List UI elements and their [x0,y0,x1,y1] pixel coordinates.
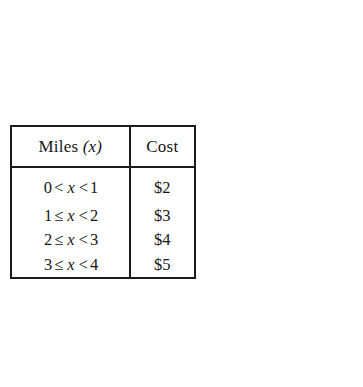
table-row: 1≤x<2 $3 [12,204,194,228]
column-header-miles: Miles (x) [12,127,130,167]
range-upper-operator: < [77,206,90,225]
cell-miles-range: 3≤x<4 [12,253,130,277]
range-lower-bound: 1 [44,206,53,225]
range-lower-operator: ≤ [53,255,66,274]
cell-miles-range: 1≤x<2 [12,204,130,228]
range-variable: x [65,206,77,225]
range-variable: x [65,255,77,274]
table-header-row: Miles (x) Cost [12,127,194,167]
range-lower-operator: ≤ [53,230,66,249]
cell-miles-range: 0<x<1 [12,167,130,204]
range-upper-bound: 1 [90,178,99,197]
range-variable: x [65,178,77,197]
table-row: 2≤x<3 $4 [12,228,194,252]
cell-miles-range: 2≤x<3 [12,228,130,252]
range-upper-operator: < [77,255,90,274]
graph-region: Dollars C [300,0,363,387]
range-upper-operator: < [77,178,90,197]
cell-cost-value: $5 [130,253,194,277]
range-lower-bound: 2 [44,230,53,249]
column-header-miles-text: Miles [38,137,78,156]
range-upper-bound: 2 [90,206,99,225]
cell-cost-value: $2 [130,167,194,204]
cost-table: Miles (x) Cost 0<x<1 $2 1≤x<2 $3 [10,125,196,279]
range-upper-operator: < [77,230,90,249]
column-header-miles-variable: (x) [83,137,102,156]
range-lower-operator: < [53,178,66,197]
range-lower-bound: 3 [44,255,53,274]
column-header-cost: Cost [130,127,194,167]
range-variable: x [65,230,77,249]
table-body: 0<x<1 $2 1≤x<2 $3 2≤x<3 $4 3≤x<4 [12,167,194,277]
range-upper-bound: 3 [90,230,99,249]
table-header: Miles (x) Cost [12,127,194,167]
table-grid: Miles (x) Cost 0<x<1 $2 1≤x<2 $3 [12,127,194,277]
table-row: 3≤x<4 $5 [12,253,194,277]
cell-cost-value: $4 [130,228,194,252]
range-lower-operator: ≤ [53,206,66,225]
range-upper-bound: 4 [90,255,99,274]
range-lower-bound: 0 [44,178,53,197]
cell-cost-value: $3 [130,204,194,228]
table-row: 0<x<1 $2 [12,167,194,204]
